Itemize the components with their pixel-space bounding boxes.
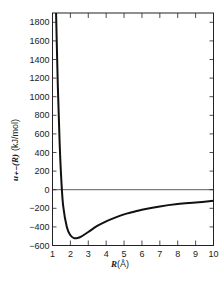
x-tick-label: 9 xyxy=(193,249,198,259)
potential-energy-chart: 1234567891018001600140012001000800600400… xyxy=(0,0,224,285)
x-tick-label: 3 xyxy=(86,249,91,259)
x-tick-label: 7 xyxy=(157,249,162,259)
y-axis-title: u₊₋(R)(kJ/mol) xyxy=(10,119,20,181)
y-tick-label: −400 xyxy=(29,222,49,232)
y-tick-label: 1200 xyxy=(29,73,49,83)
x-axis-title: R(Å) xyxy=(110,259,129,269)
series-line-potential xyxy=(56,13,213,238)
x-tick-label: 2 xyxy=(68,249,73,259)
y-tick-label: 0 xyxy=(44,185,49,195)
x-tick-label: 1 xyxy=(50,249,55,259)
y-tick-label: −200 xyxy=(29,203,49,213)
plot-frame xyxy=(53,13,214,246)
x-tick-label: 10 xyxy=(208,249,218,259)
x-tick-label: 8 xyxy=(175,249,180,259)
y-tick-label: −600 xyxy=(29,241,49,251)
y-tick-label: 200 xyxy=(34,166,49,176)
x-tick-label: 4 xyxy=(104,249,109,259)
y-tick-label: 1000 xyxy=(29,92,49,102)
y-tick-label: 600 xyxy=(34,129,49,139)
y-tick-label: 800 xyxy=(34,110,49,120)
y-tick-label: 1600 xyxy=(29,36,49,46)
x-tick-label: 5 xyxy=(122,249,127,259)
y-tick-label: 400 xyxy=(34,148,49,158)
y-tick-label: 1800 xyxy=(29,17,49,27)
x-tick-label: 6 xyxy=(139,249,144,259)
y-tick-label: 1400 xyxy=(29,55,49,65)
